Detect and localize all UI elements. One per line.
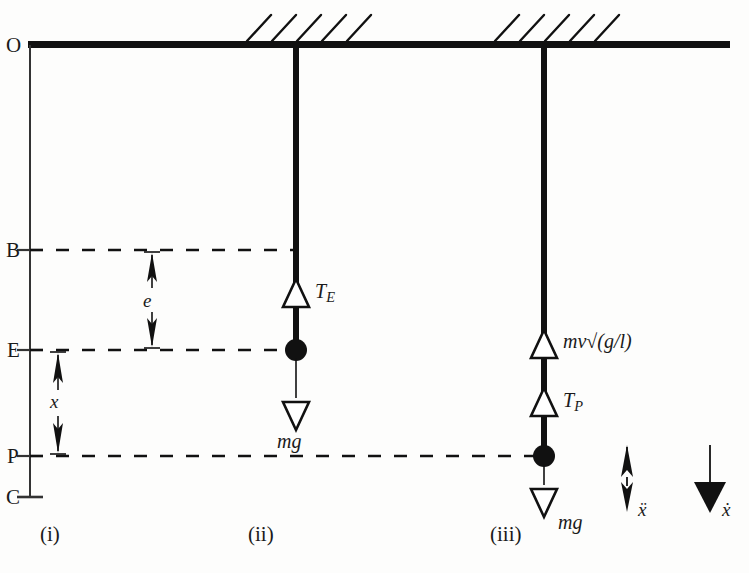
case-i-caption: (i) — [40, 524, 60, 545]
hatching-support-iii — [495, 15, 619, 41]
force-impulse-mv-label: mv√(g/l) — [563, 331, 632, 351]
dimension-x-label: x — [50, 392, 58, 411]
pendulum-figure: O B E P C e x TE mg mv√(g/l) TP mg ẍ ẋ (… — [0, 0, 749, 573]
vertical-reference-axis — [17, 45, 43, 497]
case-iii-caption: (iii) — [490, 524, 522, 545]
force-tension-e-arrow — [283, 279, 309, 307]
dimension-e-label: e — [143, 291, 151, 310]
case-ii-group — [283, 45, 309, 430]
point-e-label: E — [7, 340, 20, 361]
force-weight-ii-label: mg — [277, 431, 301, 451]
figure-canvas — [0, 0, 749, 573]
case-ii-caption: (ii) — [248, 524, 274, 545]
ceiling-support-line — [28, 41, 730, 48]
force-weight-iii-arrow — [531, 464, 557, 517]
point-b-label: B — [6, 240, 20, 261]
bob-ii — [285, 339, 307, 361]
legend-acceleration-arrow — [621, 445, 633, 512]
force-tension-p-label: TP — [563, 390, 583, 413]
point-p-label: P — [7, 446, 19, 467]
case-iii-group — [531, 45, 557, 517]
force-tension-e-label: TE — [315, 281, 335, 304]
force-impulse-mv-arrow — [531, 330, 557, 358]
point-o-label: O — [6, 35, 21, 56]
force-tension-p-arrow — [531, 388, 557, 416]
legend-velocity-label: ẋ — [722, 500, 730, 519]
legend-acceleration-label: ẍ — [638, 500, 646, 519]
point-c-label: C — [6, 487, 20, 508]
force-weight-ii-arrow — [283, 358, 309, 430]
force-weight-iii-label: mg — [558, 512, 582, 532]
bob-iii — [533, 445, 555, 467]
hatching-support-ii — [247, 15, 371, 41]
